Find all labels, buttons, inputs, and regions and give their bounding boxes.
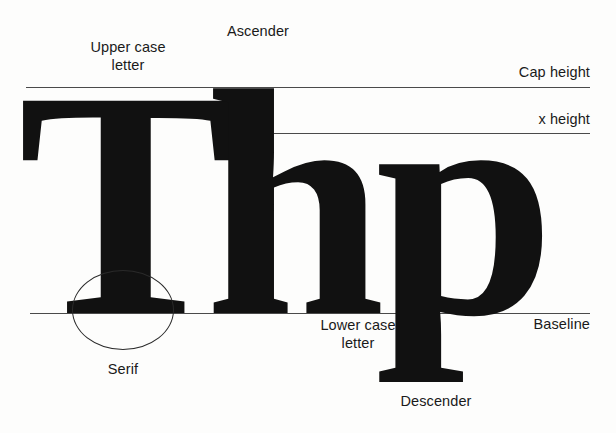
label-lower-case-letter: Lower case letter xyxy=(288,316,428,352)
label-descender: Descender xyxy=(326,392,546,410)
label-baseline: Baseline xyxy=(446,315,590,333)
typography-diagram: T h p Upper case letter Ascender Cap hei… xyxy=(0,0,616,433)
label-cap-height: Cap height xyxy=(446,63,590,81)
label-upper-case-letter: Upper case letter xyxy=(58,38,198,74)
guide-line-cap-height xyxy=(26,87,590,88)
guide-line-x-height xyxy=(214,133,590,134)
label-serif: Serif xyxy=(62,360,184,378)
label-ascender: Ascender xyxy=(188,22,328,40)
label-x-height: x height xyxy=(446,110,590,128)
serif-callout-circle xyxy=(72,270,174,350)
